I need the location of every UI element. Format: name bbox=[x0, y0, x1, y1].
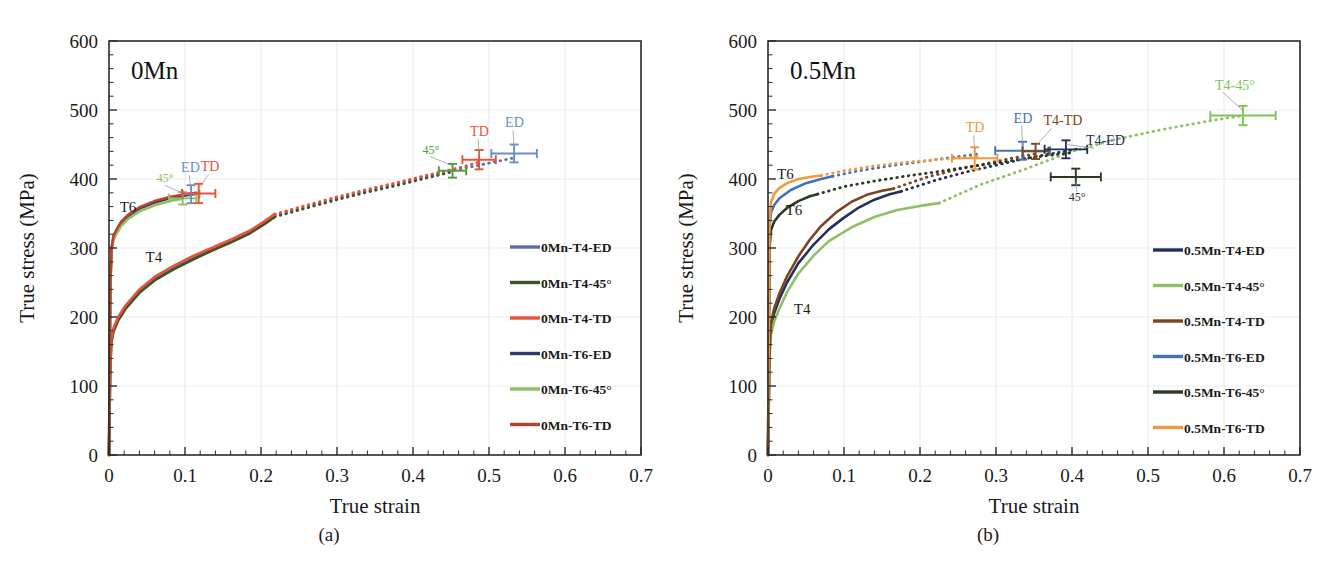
x-axis-title: True strain bbox=[330, 494, 421, 518]
marker-label: T4-ED bbox=[1086, 133, 1125, 148]
data-marker: ED bbox=[491, 115, 537, 162]
legend-item[interactable]: 0Mn-T4-TD bbox=[510, 311, 612, 326]
data-marker: TD bbox=[952, 120, 998, 169]
series-solid-line bbox=[109, 193, 196, 455]
curve-label: T6 bbox=[777, 166, 794, 182]
series-dotted-line bbox=[939, 116, 1243, 204]
legend-item[interactable]: 0Mn-T6-TD bbox=[510, 418, 612, 433]
x-tick-label: 0.4 bbox=[401, 465, 425, 486]
y-tick-label: 600 bbox=[70, 31, 99, 52]
marker-label: 45° bbox=[1069, 190, 1086, 204]
x-tick-label: 0.2 bbox=[908, 465, 932, 486]
series-0mn-t4-45- bbox=[109, 172, 451, 455]
legend-label: 0Mn-T4-ED bbox=[541, 240, 612, 255]
legend-label: 0Mn-T4-TD bbox=[541, 311, 612, 326]
legend-label: 0.5Mn-T6-TD bbox=[1184, 421, 1265, 436]
x-axis-ticks bbox=[768, 447, 1300, 455]
data-marker: 45° bbox=[1051, 169, 1101, 204]
legend-item[interactable]: 0Mn-T6-ED bbox=[510, 347, 612, 362]
label-leader-line bbox=[165, 185, 183, 193]
legend-label: 0Mn-T6-TD bbox=[541, 418, 612, 433]
chart-b-svg: TDEDT4-TDT4-ED45°T4-45°00.10.20.30.40.50… bbox=[659, 0, 1317, 581]
data-marker: T4-45° bbox=[1210, 78, 1275, 126]
series-0mn-t4-td bbox=[109, 162, 478, 455]
markers-group: 45°EDTD45°TDED bbox=[157, 115, 537, 204]
legend-label: 0.5Mn-T4-ED bbox=[1184, 243, 1265, 258]
x-tick-label: 0.7 bbox=[629, 465, 653, 486]
y-tick-label: 400 bbox=[729, 169, 758, 190]
series-solid-line bbox=[109, 199, 181, 455]
chart-a-canvas: 45°EDTD45°TDED00.10.20.30.40.50.60.70100… bbox=[0, 0, 658, 581]
marker-label: T4-45° bbox=[1215, 78, 1255, 93]
x-tick-label: 0.5 bbox=[1136, 465, 1160, 486]
legend-item[interactable]: 0.5Mn-T6-TD bbox=[1153, 421, 1265, 436]
y-axis-title: True stress (MPa) bbox=[674, 173, 698, 323]
legend-label: 0.5Mn-T6-45° bbox=[1184, 385, 1265, 400]
legend-item[interactable]: 0.5Mn-T6-ED bbox=[1153, 350, 1265, 365]
legend-item[interactable]: 0.5Mn-T4-45° bbox=[1153, 279, 1265, 294]
series-solid-line bbox=[768, 194, 817, 455]
chart-panel-a: 45°EDTD45°TDED00.10.20.30.40.50.60.70100… bbox=[0, 0, 658, 581]
legend-label: 0.5Mn-T4-TD bbox=[1184, 314, 1265, 329]
series-0mn-t6-45- bbox=[109, 199, 181, 455]
x-axis-title: True strain bbox=[989, 494, 1080, 518]
marker-label: ED bbox=[505, 115, 524, 130]
marker-label: 45° bbox=[423, 143, 440, 157]
y-tick-label: 0 bbox=[748, 445, 758, 466]
y-tick-label: 300 bbox=[729, 238, 758, 259]
legend-item[interactable]: 0.5Mn-T6-45° bbox=[1153, 385, 1265, 400]
curve-label: T4 bbox=[794, 301, 811, 317]
x-tick-label: 0 bbox=[763, 465, 773, 486]
x-tick-label: 0.7 bbox=[1288, 465, 1312, 486]
y-tick-label: 300 bbox=[70, 238, 99, 259]
series-solid-line bbox=[109, 217, 275, 455]
y-tick-label: 200 bbox=[70, 307, 99, 328]
legend-item[interactable]: 0Mn-T4-45° bbox=[510, 276, 612, 291]
caption-b: (b) bbox=[977, 524, 999, 545]
series-0mn-t6-ed bbox=[109, 194, 194, 455]
marker-label: TD bbox=[966, 120, 985, 135]
label-leader-line bbox=[189, 175, 191, 189]
y-tick-label: 100 bbox=[70, 376, 99, 397]
series-solid-line bbox=[768, 203, 939, 455]
y-tick-label: 200 bbox=[729, 307, 758, 328]
chart-a-svg: 45°EDTD45°TDED00.10.20.30.40.50.60.70100… bbox=[0, 0, 658, 581]
series-solid-line bbox=[768, 191, 901, 455]
y-tick-label: 500 bbox=[729, 100, 758, 121]
label-leader-line bbox=[1223, 93, 1243, 111]
legend: 0.5Mn-T4-ED0.5Mn-T4-45°0.5Mn-T4-TD0.5Mn-… bbox=[1153, 243, 1265, 436]
x-tick-label: 0.4 bbox=[1060, 465, 1084, 486]
panel-title: 0Mn bbox=[131, 57, 179, 84]
marker-label: T4-TD bbox=[1044, 113, 1083, 128]
legend-label: 0Mn-T6-ED bbox=[541, 347, 612, 362]
x-tick-label: 0.1 bbox=[832, 465, 856, 486]
x-tick-label: 0.3 bbox=[984, 465, 1008, 486]
data-marker: TD bbox=[462, 124, 495, 170]
chart-b-canvas: TDEDT4-TDT4-ED45°T4-45°00.10.20.30.40.50… bbox=[659, 0, 1317, 581]
legend-label: 0Mn-T6-45° bbox=[541, 382, 612, 397]
legend-label: 0.5Mn-T6-ED bbox=[1184, 350, 1265, 365]
legend-item[interactable]: 0Mn-T4-ED bbox=[510, 240, 612, 255]
y-axis-title: True stress (MPa) bbox=[15, 173, 39, 323]
legend-label: 0.5Mn-T4-45° bbox=[1184, 279, 1265, 294]
chart-panel-b: TDEDT4-TDT4-ED45°T4-45°00.10.20.30.40.50… bbox=[659, 0, 1317, 581]
legend-item[interactable]: 0.5Mn-T4-TD bbox=[1153, 314, 1265, 329]
y-tick-label: 0 bbox=[89, 445, 99, 466]
series-solid-line bbox=[109, 194, 194, 455]
label-leader-line bbox=[431, 157, 453, 166]
x-tick-label: 0.6 bbox=[553, 465, 577, 486]
figure-root: 45°EDTD45°TDED00.10.20.30.40.50.60.70100… bbox=[0, 0, 1317, 581]
legend-item[interactable]: 0Mn-T6-45° bbox=[510, 382, 612, 397]
marker-label: ED bbox=[1014, 111, 1033, 126]
x-axis-ticks bbox=[109, 447, 641, 455]
x-tick-label: 0.1 bbox=[173, 465, 197, 486]
x-tick-label: 0.6 bbox=[1212, 465, 1236, 486]
marker-label: TD bbox=[201, 159, 220, 174]
curve-label: T6 bbox=[785, 202, 802, 218]
x-tick-label: 0 bbox=[104, 465, 114, 486]
legend: 0Mn-T4-ED0Mn-T4-45°0Mn-T4-TD0Mn-T6-ED0Mn… bbox=[510, 240, 612, 433]
curve-label: T6 bbox=[120, 199, 137, 215]
series-0mn-t6-td bbox=[109, 193, 196, 455]
legend-item[interactable]: 0.5Mn-T4-ED bbox=[1153, 243, 1265, 258]
y-tick-label: 500 bbox=[70, 100, 99, 121]
